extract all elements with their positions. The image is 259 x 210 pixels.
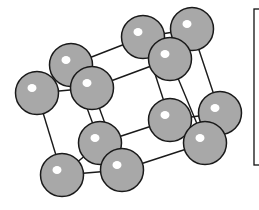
- highlight: [134, 28, 143, 36]
- highlight: [28, 84, 37, 92]
- side-panel-frame: [254, 9, 259, 165]
- highlight: [53, 166, 62, 174]
- highlight: [211, 104, 220, 112]
- highlight: [161, 111, 170, 119]
- atom: [71, 67, 114, 110]
- highlight: [183, 20, 192, 28]
- highlight: [113, 161, 122, 169]
- atom: [41, 154, 84, 197]
- highlight: [196, 134, 205, 142]
- atom: [16, 72, 59, 115]
- atom: [149, 38, 192, 81]
- atoms: [16, 8, 242, 197]
- highlight: [83, 79, 92, 87]
- atom: [101, 149, 144, 192]
- highlight: [62, 56, 71, 64]
- atom: [184, 122, 227, 165]
- crystal-lattice-diagram: [0, 0, 259, 210]
- highlight: [161, 50, 170, 58]
- highlight: [91, 134, 100, 142]
